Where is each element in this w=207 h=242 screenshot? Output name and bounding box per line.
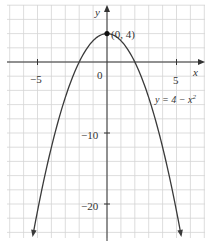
tick-label-y-neg20: −20: [81, 200, 99, 212]
equation-label: y = 4 − x2: [154, 93, 196, 105]
curve-end-arrow-icon: [177, 230, 183, 237]
y-axis-arrow-icon: [104, 5, 110, 12]
parabola-chart: y x (0, 4) −5 0 5 −10 −20 y = 4 − x2: [0, 0, 207, 242]
equation-exponent: 2: [192, 93, 196, 101]
tick-label-x-neg5: −5: [30, 73, 42, 85]
tick-label-x-0: 0: [97, 69, 103, 81]
equation-main: y = 4 − x: [154, 94, 193, 105]
vertex-label: (0, 4): [111, 28, 135, 41]
tick-label-x-5: 5: [173, 74, 179, 86]
x-axis-label: x: [192, 66, 198, 78]
y-axis-label: y: [94, 6, 100, 18]
curve-end-arrow-icon: [31, 230, 37, 237]
vertex-point: [104, 31, 109, 36]
tick-label-y-neg10: −10: [81, 129, 99, 141]
